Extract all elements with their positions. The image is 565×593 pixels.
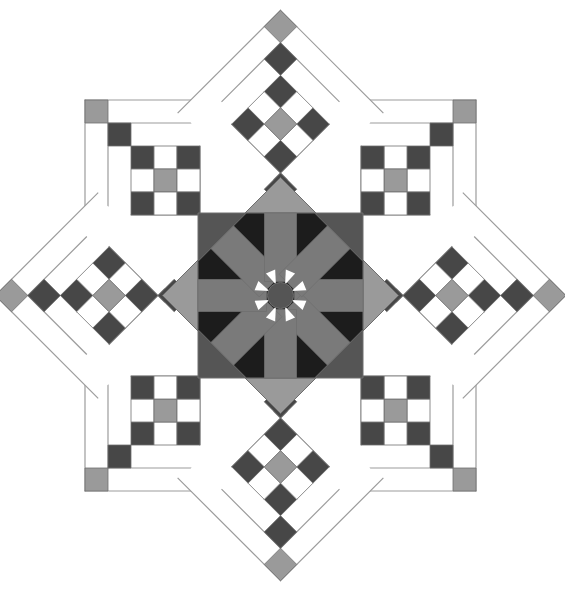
nine-patch-square [177,376,200,399]
nine-patch-square [407,192,430,215]
nine-patch-square [384,192,407,215]
corner-square [85,100,108,123]
nine-patch-square [407,169,430,192]
nine-patch-square [407,146,430,169]
nine-patch-square [361,399,384,422]
center-medallion [163,178,399,414]
nine-patch-square [154,146,177,169]
nine-patch-square [361,422,384,445]
nine-patch-square [407,399,430,422]
nine-patch-square [131,422,154,445]
nine-patch-square [131,399,154,422]
nine-patch-square [177,192,200,215]
chain-square [108,445,131,468]
nine-patch-square [384,422,407,445]
nine-patch-square [154,376,177,399]
nine-patch-square [361,192,384,215]
nine-patch-square [154,192,177,215]
nine-patch-square [384,169,407,192]
nine-patch-square [177,399,200,422]
nine-patch-square [154,422,177,445]
corner-square [85,468,108,491]
nine-patch-square [131,192,154,215]
nine-patch-square [177,422,200,445]
quilt-figure: Eight-point star quilt block [0,0,565,593]
corner-square [453,468,476,491]
nine-patch-square [131,169,154,192]
corner-square [453,100,476,123]
nine-patch-square [407,422,430,445]
nine-patch-square [384,376,407,399]
nine-patch-square [384,399,407,422]
nine-patch-square [131,146,154,169]
nine-patch-square [154,399,177,422]
nine-patch-square [361,169,384,192]
nine-patch-square [177,169,200,192]
chain-square [430,123,453,146]
nine-patch-square [407,376,430,399]
nine-patch-square [361,376,384,399]
chain-square [108,123,131,146]
nine-patch-square [154,169,177,192]
nine-patch-square [177,146,200,169]
center-disc [268,283,294,309]
nine-patch-square [361,146,384,169]
chain-square [430,445,453,468]
nine-patch-square [131,376,154,399]
quilt-star-svg [0,0,565,593]
nine-patch-square [384,146,407,169]
